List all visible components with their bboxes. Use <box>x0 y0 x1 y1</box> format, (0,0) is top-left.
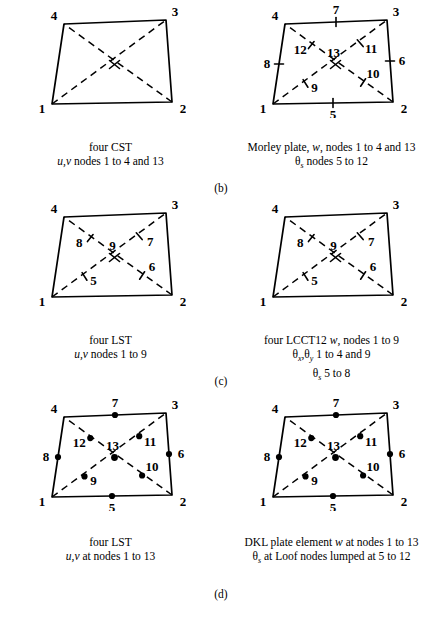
diagonal-1-3 <box>52 213 166 297</box>
four-lst-quadrilateral-caption: four LSTu,v nodes 1 to 9 <box>0 333 221 361</box>
four-lst-quadrilateral-cell: 567891234 <box>0 199 221 311</box>
panel-label-b: (b) <box>0 182 442 194</box>
edge-node-marker-6 <box>386 451 392 457</box>
node-label-8: 8 <box>263 56 270 71</box>
four-lst-13node-quadrilateral-cell: 56789101112131234 <box>0 399 221 511</box>
four-cst-quadrilateral-caption-line: four CST <box>0 140 221 154</box>
corner-node-label-3: 3 <box>171 6 178 19</box>
corner-node-label-1: 1 <box>38 101 45 116</box>
diagonal-1-3 <box>273 213 387 297</box>
center-node-marker <box>109 61 119 69</box>
node-label-7: 7 <box>146 234 153 249</box>
diagonal-2-4 <box>285 217 393 295</box>
dkl-plate-element-quadrilateral-caption-line: DKL plate element w at nodes 1 to 13 <box>221 535 442 549</box>
diagonal-node-marker-7 <box>136 233 142 240</box>
node-label-6: 6 <box>398 446 405 461</box>
diagonal-2-4 <box>64 24 172 102</box>
node-label-5: 5 <box>329 500 336 511</box>
node-label-6: 6 <box>177 446 184 461</box>
node-label-11: 11 <box>144 434 156 449</box>
node-label-10: 10 <box>366 459 379 474</box>
corner-node-label-4: 4 <box>271 401 278 416</box>
node-label-8: 8 <box>76 235 83 250</box>
diagonal-2-4 <box>285 417 393 495</box>
node-label-12: 12 <box>293 42 306 57</box>
four-lst-13node-quadrilateral-caption-line: four LST <box>0 535 221 549</box>
corner-node-label-2: 2 <box>400 294 406 309</box>
dkl-plate-element-quadrilateral: 56789101112131234 <box>257 399 407 511</box>
diagonal-node-marker-9 <box>302 473 308 479</box>
node-label-6: 6 <box>398 53 405 68</box>
edge-node-marker-7 <box>332 412 338 418</box>
node-label-8: 8 <box>263 449 270 464</box>
four-lst-quadrilateral: 567891234 <box>36 199 186 311</box>
node-label-7: 7 <box>332 399 339 410</box>
diagonal-1-3 <box>52 413 166 497</box>
node-label-9: 9 <box>109 238 116 253</box>
center-node-marker <box>109 254 119 262</box>
four-cst-quadrilateral-caption: four CSTu,v nodes 1 to 4 and 13 <box>0 140 221 168</box>
corner-node-label-1: 1 <box>38 494 45 509</box>
edge-node-marker-5 <box>329 493 335 499</box>
center-node-marker <box>330 254 340 262</box>
corner-node-label-1: 1 <box>259 294 266 309</box>
edge-node-marker-6 <box>165 451 171 457</box>
node-label-8: 8 <box>297 235 304 250</box>
corner-node-label-2: 2 <box>400 101 406 116</box>
node-label-11: 11 <box>365 434 377 449</box>
morley-plate-quadrilateral: 56789101112131234 <box>257 6 407 118</box>
node-label-7: 7 <box>111 399 118 410</box>
corner-node-label-2: 2 <box>179 101 185 116</box>
four-lcct12-quadrilateral-caption-line: θx,θy 1 to 4 and 9 <box>221 347 442 366</box>
node-label-7: 7 <box>332 6 339 17</box>
node-label-9: 9 <box>90 473 97 488</box>
corner-node-label-2: 2 <box>179 294 185 309</box>
corner-node-label-4: 4 <box>50 201 57 216</box>
corner-node-label-2: 2 <box>400 494 406 509</box>
node-label-8: 8 <box>42 449 49 464</box>
node-label-11: 11 <box>365 41 377 56</box>
diagonal-node-marker-12 <box>87 435 93 441</box>
node-label-5: 5 <box>90 273 97 288</box>
center-node-marker <box>332 454 339 461</box>
node-label-9: 9 <box>311 80 318 95</box>
edge-node-marker-8 <box>275 454 281 460</box>
diagonal-node-marker-10 <box>360 472 366 478</box>
node-label-13: 13 <box>327 438 341 453</box>
diagonal-node-marker-7 <box>357 233 363 240</box>
corner-node-label-1: 1 <box>259 494 266 509</box>
morley-plate-quadrilateral-caption-line: θs nodes 5 to 12 <box>221 154 442 173</box>
diagonal-node-marker-11 <box>357 433 363 439</box>
diagonal-node-marker-9 <box>81 473 87 479</box>
morley-plate-quadrilateral-caption-line: Morley plate, w, nodes 1 to 4 and 13 <box>221 140 442 154</box>
node-label-6: 6 <box>369 259 376 274</box>
four-lcct12-quadrilateral: 567891234 <box>257 199 407 311</box>
node-label-9: 9 <box>330 238 337 253</box>
dkl-plate-element-quadrilateral-caption: DKL plate element w at nodes 1 to 13θs a… <box>221 535 442 568</box>
edge-node-marker-7 <box>111 412 117 418</box>
diagonal-node-marker-11 <box>136 433 142 439</box>
dkl-plate-element-quadrilateral-cell: 56789101112131234 <box>221 399 442 511</box>
dkl-plate-element-quadrilateral-caption-line: θs at Loof nodes lumped at 5 to 12 <box>221 549 442 568</box>
morley-plate-quadrilateral-cell: 56789101112131234 <box>221 6 442 118</box>
diagonal-node-marker-10 <box>139 472 145 478</box>
edge-node-marker-8 <box>54 454 60 460</box>
corner-node-label-3: 3 <box>171 199 178 212</box>
four-lst-quadrilateral-caption-line: four LST <box>0 333 221 347</box>
corner-node-label-3: 3 <box>392 6 399 19</box>
four-lst-quadrilateral-caption-line: u,v nodes 1 to 9 <box>0 347 221 361</box>
element-outline <box>273 413 393 497</box>
diagonal-1-3 <box>273 413 387 497</box>
diagonal-1-3 <box>52 20 166 104</box>
center-node-marker <box>111 454 118 461</box>
diagonal-2-4 <box>64 217 172 295</box>
corner-node-label-4: 4 <box>50 8 57 23</box>
panel-label-c: (c) <box>0 375 442 387</box>
panel-label-d: (d) <box>0 588 442 600</box>
four-lcct12-quadrilateral-caption-line: four LCCT12 w, nodes 1 to 9 <box>221 333 442 347</box>
corner-node-label-3: 3 <box>171 399 178 412</box>
node-label-9: 9 <box>311 473 318 488</box>
corner-node-label-1: 1 <box>259 101 266 116</box>
node-label-5: 5 <box>329 107 336 118</box>
element-outline <box>52 413 172 497</box>
